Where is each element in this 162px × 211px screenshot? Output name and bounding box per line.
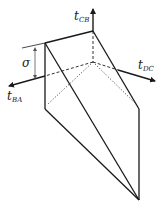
label-t-ba: t BA [7,89,22,104]
solid-edges [22,31,139,200]
top-edge [45,31,93,43]
axis-ba [9,76,45,86]
label-t-cb: t CB [74,9,90,24]
top-tick-extension [22,43,45,48]
dashed-ba-segment [45,62,93,76]
hidden-edges [45,31,136,104]
label-t-dc: t DC [138,58,155,73]
polytope-diagram: σ t CB t DC t BA [0,0,162,211]
sigma-label: σ [22,56,31,70]
inner-diagonal-edge [45,43,139,200]
svg-text:BA: BA [11,96,22,104]
right-upper-edge [93,31,139,109]
svg-text:CB: CB [79,16,90,24]
dotted-left-bottom [48,62,93,104]
svg-text:DC: DC [142,65,155,73]
